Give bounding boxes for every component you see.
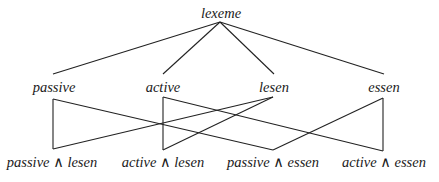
edge-active-to-active_essen — [163, 97, 383, 151]
node-passive: passive — [32, 79, 76, 95]
node-essen: essen — [368, 79, 399, 95]
edges — [53, 22, 384, 151]
edge-lexeme-to-essen — [220, 22, 384, 74]
edge-lexeme-to-passive — [53, 22, 220, 74]
edge-lexeme-to-active — [163, 22, 220, 74]
node-active-and-essen: active ∧ essen — [342, 154, 426, 170]
node-passive-and-essen: passive ∧ essen — [226, 154, 319, 170]
lexeme-lattice-diagram: lexeme passive active lesen essen passiv… — [0, 0, 439, 182]
node-active: active — [146, 79, 181, 95]
node-lesen: lesen — [259, 79, 289, 95]
edge-essen-to-passive_essen — [273, 98, 383, 150]
node-passive-and-lesen: passive ∧ lesen — [6, 154, 97, 170]
node-active-and-lesen: active ∧ lesen — [122, 154, 204, 170]
node-lexeme: lexeme — [201, 5, 242, 21]
edge-lexeme-to-lesen — [220, 22, 274, 74]
edge-lesen-to-active_lesen — [163, 97, 273, 150]
